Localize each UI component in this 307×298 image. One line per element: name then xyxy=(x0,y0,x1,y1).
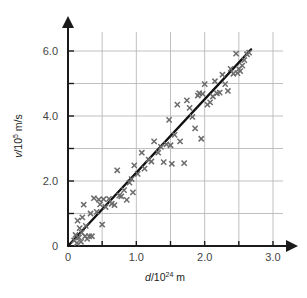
x-tick-label: 1.0 xyxy=(129,251,144,263)
x-tick-label: 0 xyxy=(65,251,71,263)
x-axis-title: d/1024 m xyxy=(145,271,185,283)
x-tick-label: 2.0 xyxy=(197,251,212,263)
plot-svg: 01.02.03.0 02.04.06.0 d/1024 m v/105 m/s xyxy=(0,0,307,298)
y-tick-label: 4.0 xyxy=(43,110,58,122)
y-tick-label: 6.0 xyxy=(43,45,58,57)
y-tick-label: 0 xyxy=(52,240,58,252)
y-tick-label: 2.0 xyxy=(43,175,58,187)
hubble-scatter-figure: 01.02.03.0 02.04.06.0 d/1024 m v/105 m/s xyxy=(0,0,307,298)
x-tick-label: 3.0 xyxy=(265,251,280,263)
